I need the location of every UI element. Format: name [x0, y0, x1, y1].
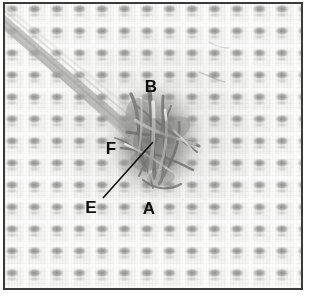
- mesh-fabric-field: [5, 4, 301, 288]
- central-fibre-tangle: [105, 80, 205, 200]
- photo-frame: [3, 2, 303, 290]
- stray-fibres: [199, 42, 229, 82]
- fibre-detail-layer: [3, 2, 303, 290]
- figure-root: B F E A: [0, 0, 312, 300]
